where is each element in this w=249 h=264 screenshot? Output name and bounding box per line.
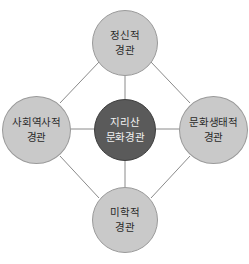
node-label: 경관 (115, 220, 134, 235)
node-label: 미학적 (110, 205, 139, 220)
node-spiritual-landscape: 정신적 경관 (92, 10, 158, 76)
node-jirisan-cultural-landscape: 지리산 문화경관 (94, 99, 156, 161)
connector-right-bottom (151, 156, 190, 198)
node-socio-historical-landscape: 사회역사적 경관 (2, 96, 71, 164)
center-label: 문화경관 (106, 130, 145, 145)
node-label: 정신적 (110, 28, 139, 43)
node-label: 경관 (27, 130, 46, 145)
node-cultural-ecological-landscape: 문화생태적 경관 (179, 96, 248, 164)
landscape-diagram: 정신적 경관 사회역사적 경관 문화생태적 경관 미학적 경관 지리산 문화경관 (0, 0, 249, 264)
center-label: 지리산 (110, 115, 139, 130)
node-label: 경관 (115, 43, 134, 58)
node-label: 경관 (204, 130, 223, 145)
node-label: 사회역사적 (12, 115, 61, 130)
node-label: 문화생태적 (189, 115, 238, 130)
node-aesthetic-landscape: 미학적 경관 (92, 187, 158, 253)
connector-top-left (60, 62, 99, 103)
connector-left-bottom (60, 156, 99, 198)
connector-top-right (151, 62, 190, 103)
